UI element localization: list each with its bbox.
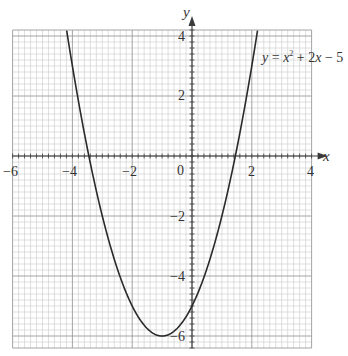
- x-axis-label: x: [322, 148, 330, 164]
- x-tick-label: −4: [62, 164, 77, 179]
- y-axis-label: y: [181, 4, 190, 20]
- eq-equals: =: [268, 50, 283, 65]
- y-tick-label: −2: [170, 209, 185, 224]
- x-tick-label: −2: [122, 164, 137, 179]
- y-tick-label: 2: [178, 88, 185, 103]
- quadratic-graph: x y −6 −4 −2 2 4 0 4 2 −2 −4 −6 y = x2 +…: [0, 0, 348, 356]
- x-tick-label: 2: [248, 164, 255, 179]
- y-tick-label: −4: [170, 269, 185, 284]
- x-tick-label: 4: [307, 164, 314, 179]
- y-tick-label: 4: [178, 29, 185, 44]
- eq-minus: − 5: [321, 50, 343, 65]
- y-tick-label: −6: [170, 329, 185, 344]
- x-tick-label: −6: [3, 164, 18, 179]
- origin-label: 0: [177, 163, 184, 178]
- eq-plus: + 2: [293, 50, 315, 65]
- equation-label: y = x2 + 2x − 5: [260, 49, 343, 65]
- minor-gridlines: [13, 30, 312, 348]
